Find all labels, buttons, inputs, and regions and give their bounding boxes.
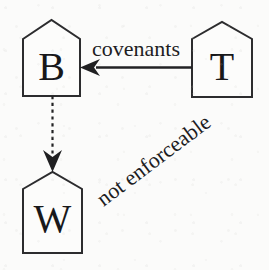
node-W[interactable]: W xyxy=(23,172,82,253)
node-B[interactable]: B xyxy=(23,20,80,96)
edge-covenants[interactable]: covenants xyxy=(80,36,192,76)
node-W-label: W xyxy=(34,196,72,241)
node-T-label: T xyxy=(210,44,234,89)
node-T[interactable]: T xyxy=(192,22,252,97)
edge-not-enforceable-label: not enforceable xyxy=(92,109,216,211)
node-B-label: B xyxy=(38,44,65,89)
diagram-svg: B T W covenants not enforceable xyxy=(0,0,269,270)
edge-covenants-label: covenants xyxy=(92,36,180,61)
diagram-canvas: B T W covenants not enforceable xyxy=(0,0,269,270)
